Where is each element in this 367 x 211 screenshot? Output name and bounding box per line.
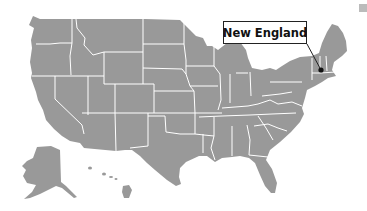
- new-england-label: New England: [223, 21, 307, 44]
- legend-swatch: [359, 4, 367, 12]
- legend-label-2: [358, 50, 367, 76]
- new-england-marker[interactable]: [318, 67, 323, 72]
- us-map: [0, 0, 367, 211]
- alaska: [22, 146, 77, 199]
- legend-label-1: [358, 16, 367, 42]
- hawaii: [88, 167, 132, 199]
